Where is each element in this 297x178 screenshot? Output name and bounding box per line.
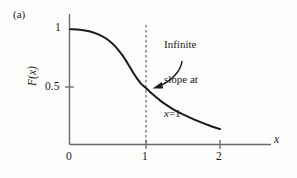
panel-label: (a) bbox=[13, 9, 25, 21]
annotation-text: Infinite slope at x=1 bbox=[164, 16, 198, 143]
x-tick-label-1: 1 bbox=[142, 150, 148, 162]
annotation-line-2: slope at bbox=[164, 74, 198, 86]
annotation-line-3-value: =1 bbox=[169, 107, 181, 119]
y-axis-title: F(x) bbox=[26, 58, 38, 94]
figure-panel: (a) 1 0.5 0 1 2 x F(x) Infinite slope at… bbox=[0, 0, 297, 178]
annotation-line-1: Infinite bbox=[164, 39, 198, 51]
annotation-arrowhead bbox=[153, 82, 164, 88]
annotation-line-3: x=1 bbox=[164, 108, 198, 120]
y-tick-label-0point5: 0.5 bbox=[45, 80, 59, 92]
y-tick-label-1: 1 bbox=[55, 21, 61, 33]
x-tick-label-0: 0 bbox=[66, 150, 72, 162]
x-tick-label-2: 2 bbox=[216, 150, 222, 162]
x-axis-title: x bbox=[274, 133, 279, 145]
